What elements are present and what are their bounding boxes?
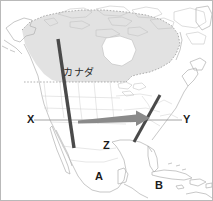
north-america-map (0, 0, 213, 201)
label-y: Y (183, 114, 190, 125)
label-canada-japanese: カナダ (63, 68, 95, 78)
label-a: A (95, 171, 103, 182)
label-b: B (155, 180, 163, 191)
great-lakes (118, 82, 146, 96)
canada-shaded-region (22, 10, 180, 82)
map-figure: カナダ X Y Z A B (0, 0, 213, 201)
label-x: X (27, 114, 34, 125)
label-z: Z (103, 140, 110, 151)
